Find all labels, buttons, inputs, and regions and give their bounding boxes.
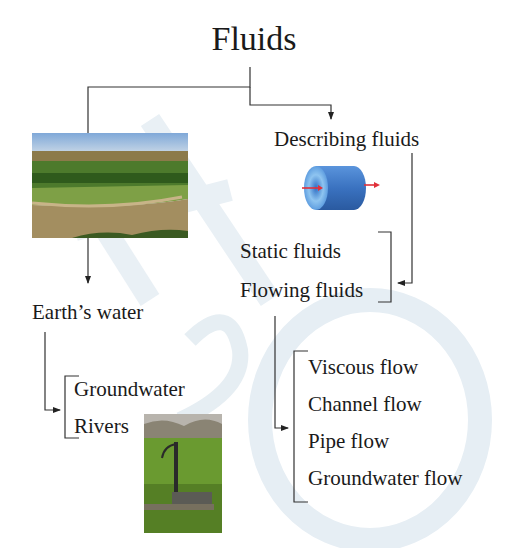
static-fluids-label: Static fluids — [240, 241, 341, 262]
hand-water-pump-photo — [144, 414, 222, 533]
groundwater-label: Groundwater — [74, 379, 185, 400]
river-landscape-photo — [32, 133, 188, 238]
pipe-flow-cylinder-icon — [298, 163, 382, 213]
rivers-label: Rivers — [74, 416, 129, 437]
describing-fluids-label: Describing fluids — [274, 129, 419, 150]
pipe-flow-label: Pipe flow — [308, 431, 389, 452]
earths-water-label: Earth’s water — [32, 302, 143, 323]
viscous-flow-label: Viscous flow — [308, 357, 418, 378]
channel-flow-label: Channel flow — [308, 394, 422, 415]
flowing-fluids-label: Flowing fluids — [240, 280, 363, 301]
groundwater-flow-label: Groundwater flow — [308, 468, 463, 489]
